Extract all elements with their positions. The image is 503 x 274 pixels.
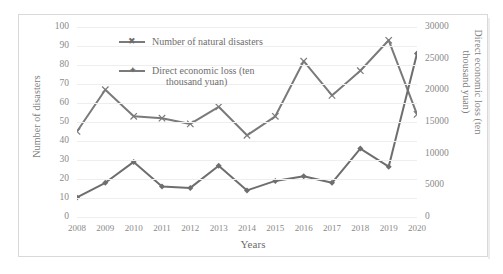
y-axis-right-tick-label: 25000 [425, 53, 465, 63]
gridline [77, 122, 417, 123]
legend-label-economic-loss-line2: thousand yuan) [152, 76, 254, 87]
x-axis-tick-label: 2020 [401, 223, 433, 233]
y-axis-left-tick-label: 70 [33, 78, 69, 88]
x-axis-tick-label: 2008 [61, 223, 93, 233]
gridline [77, 160, 417, 161]
y-axis-right-tick-label: 30000 [425, 21, 465, 31]
y-axis-right-tick-label: 0 [425, 211, 465, 221]
y-axis-left-tick-label: 20 [33, 173, 69, 183]
gridline [77, 141, 417, 142]
legend-label-economic-loss-line1: Direct economic loss (ten [152, 65, 254, 76]
y-axis-left-tick-label: 30 [33, 154, 69, 164]
data-point-marker [102, 87, 108, 93]
data-point-marker [244, 132, 250, 138]
x-axis-tick-label: 2011 [146, 223, 178, 233]
data-point-marker [272, 113, 278, 119]
legend-marker-diamond: ✦ [129, 66, 137, 75]
x-axis-tick-label: 2015 [259, 223, 291, 233]
gridline [77, 103, 417, 104]
y-axis-left-tick-label: 80 [33, 59, 69, 69]
y-axis-left-tick-label: 100 [33, 21, 69, 31]
legend-label-disasters: Number of natural disasters [152, 36, 263, 47]
x-axis-tick-label: 2009 [89, 223, 121, 233]
y-axis-left-tick-label: 90 [33, 40, 69, 50]
data-point-marker [216, 104, 222, 110]
y-axis-right-tick-label: 15000 [425, 116, 465, 126]
x-axis-tick-label: 2010 [118, 223, 150, 233]
legend-item-disasters[interactable]: ✖ Number of natural disasters [152, 36, 263, 47]
x-axis-tick-label: 2014 [231, 223, 263, 233]
x-axis-tick-label: 2019 [373, 223, 405, 233]
legend-item-economic-loss[interactable]: ✦ Direct economic loss (ten thousand yua… [152, 65, 254, 87]
legend-marker-x: ✖ [128, 37, 136, 46]
gridline [77, 27, 417, 28]
data-point-marker [329, 92, 335, 98]
y-axis-right-title: Direct economic loss (ten thousand yuan) [460, 15, 484, 150]
x-axis-tick-label: 2018 [344, 223, 376, 233]
y-axis-left-tick-label: 40 [33, 135, 69, 145]
plot-area [77, 27, 417, 217]
y-axis-left-tick-label: 60 [33, 97, 69, 107]
y-axis-left-tick-label: 50 [33, 116, 69, 126]
y-axis-left-tick-label: 0 [33, 211, 69, 221]
x-axis-tick-label: 2012 [174, 223, 206, 233]
chart-container: Number of disasters Direct economic loss… [18, 14, 488, 257]
x-axis-tick-label: 2016 [288, 223, 320, 233]
x-axis-tick-label: 2017 [316, 223, 348, 233]
y-axis-right-tick-label: 5000 [425, 179, 465, 189]
data-point-marker [357, 68, 363, 74]
gridline [77, 217, 417, 218]
y-axis-right-tick-label: 20000 [425, 84, 465, 94]
gridline [77, 179, 417, 180]
x-axis-title: Years [19, 239, 487, 250]
data-point-marker [301, 58, 307, 64]
y-axis-right-tick-label: 10000 [425, 148, 465, 158]
x-axis-tick-label: 2013 [203, 223, 235, 233]
gridline [77, 198, 417, 199]
y-axis-left-tick-label: 10 [33, 192, 69, 202]
